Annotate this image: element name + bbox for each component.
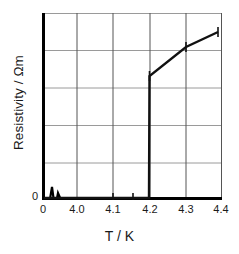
x-tick-label-4-1: 4.1: [105, 203, 120, 215]
plot-area: [42, 13, 222, 200]
x-axis-tick-labels: 0 4.0 4.1 4.2 4.3 4.4: [0, 203, 239, 219]
x-tick-label-0: 0: [40, 203, 46, 215]
x-tick-label-4-0: 4.0: [69, 203, 84, 215]
y-tick-label-zero: 0: [26, 190, 38, 202]
y-axis-label: Resistivity / Ωm: [0, 0, 36, 205]
horizontal-gridlines: [42, 14, 222, 164]
x-tick-label-4-4: 4.4: [213, 203, 228, 215]
data-point-markers: [113, 27, 218, 200]
resistivity-temperature-chart: Resistivity / Ωm 0: [0, 0, 239, 254]
x-axis-label: T / K: [0, 228, 239, 244]
y-axis-label-text: Resistivity / Ωm: [11, 55, 26, 150]
data-line: [44, 32, 218, 198]
x-tick-label-4-3: 4.3: [178, 203, 193, 215]
axis-spines: [42, 13, 222, 200]
x-tick-label-4-2: 4.2: [142, 203, 157, 215]
data-series-resistivity: [44, 32, 218, 198]
plot-svg: [42, 13, 222, 200]
